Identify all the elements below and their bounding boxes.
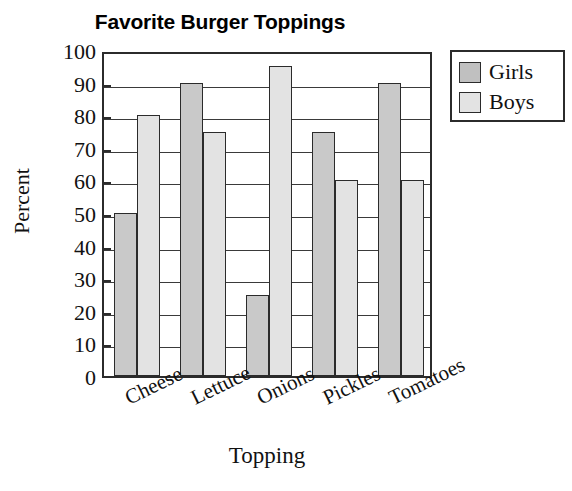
- bar-onions-boys: [269, 66, 292, 376]
- legend-swatch-boys: [459, 92, 481, 113]
- chart-legend: GirlsBoys: [450, 50, 565, 122]
- y-tick-mark-60: [102, 182, 111, 184]
- y-tick-mark-20: [102, 313, 111, 315]
- y-tick-label-0: 0: [50, 367, 96, 389]
- x-axis-title: Topping: [0, 443, 534, 469]
- y-tick-label-100: 100: [50, 41, 96, 63]
- y-tick-label-80: 80: [50, 106, 96, 128]
- y-tick-label-30: 30: [50, 269, 96, 291]
- bar-tomatoes-girls: [378, 83, 401, 376]
- bar-pickles-boys: [335, 180, 358, 376]
- y-tick-label-60: 60: [50, 171, 96, 193]
- y-tick-label-50: 50: [50, 204, 96, 226]
- bar-lettuce-boys: [203, 132, 226, 377]
- y-tick-label-20: 20: [50, 302, 96, 324]
- y-tick-mark-70: [102, 150, 111, 152]
- legend-swatch-girls: [459, 62, 481, 83]
- y-tick-mark-30: [102, 280, 111, 282]
- plot-inner: [104, 54, 430, 376]
- y-tick-mark-90: [102, 85, 111, 87]
- bar-lettuce-girls: [180, 83, 203, 376]
- y-tick-label-10: 10: [50, 334, 96, 356]
- y-tick-label-40: 40: [50, 237, 96, 259]
- legend-item-boys: Boys: [459, 87, 563, 117]
- plot-area: [102, 52, 432, 378]
- bar-cheese-girls: [114, 213, 137, 376]
- bar-tomatoes-boys: [401, 180, 424, 376]
- bar-onions-girls: [246, 295, 269, 377]
- y-tick-mark-80: [102, 117, 111, 119]
- legend-item-girls: Girls: [459, 57, 563, 87]
- y-axis-title: Percent: [9, 146, 35, 256]
- chart-title: Favorite Burger Toppings: [0, 10, 440, 34]
- y-tick-mark-10: [102, 345, 111, 347]
- y-tick-mark-40: [102, 248, 111, 250]
- y-tick-label-90: 90: [50, 74, 96, 96]
- y-tick-mark-50: [102, 215, 111, 217]
- bar-pickles-girls: [312, 132, 335, 377]
- y-axis-tick-labels: 0102030405060708090100: [46, 52, 96, 378]
- y-tick-label-70: 70: [50, 139, 96, 161]
- bar-cheese-boys: [137, 115, 160, 376]
- legend-label-girls: Girls: [489, 61, 533, 83]
- legend-label-boys: Boys: [489, 91, 534, 113]
